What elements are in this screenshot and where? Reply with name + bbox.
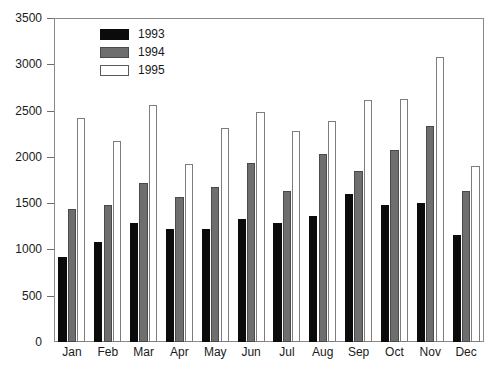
x-tick-label-feb: Feb <box>90 345 126 359</box>
y-tick-label: 3500 <box>15 10 42 26</box>
bar-jul-1994 <box>283 191 291 342</box>
y-tick-mark <box>47 64 54 65</box>
legend-item-1994[interactable]: 1994 <box>100 44 204 60</box>
bar-may-1994 <box>211 187 219 342</box>
legend-swatch-icon <box>100 47 129 58</box>
bar-oct-1993 <box>381 205 389 342</box>
legend-swatch-icon <box>100 29 129 40</box>
x-tick-label-aug: Aug <box>305 345 341 359</box>
legend-label: 1995 <box>138 63 165 77</box>
bar-jul-1993 <box>273 223 281 342</box>
legend-item-1995[interactable]: 1995 <box>100 62 204 78</box>
chart-legend: 199319941995 <box>100 24 204 82</box>
bar-jan-1993 <box>58 257 66 342</box>
legend-swatch-icon <box>100 65 129 76</box>
x-tick-label-jun: Jun <box>233 345 269 359</box>
bar-dec-1993 <box>453 235 461 342</box>
x-tick-label-jul: Jul <box>269 345 305 359</box>
bar-chart: 0500100015002000250030003500 JanFebMarAp… <box>0 0 492 378</box>
bar-feb-1993 <box>94 242 102 342</box>
legend-label: 1994 <box>138 45 165 59</box>
y-tick-label: 1000 <box>15 241 42 257</box>
bar-mar-1995 <box>149 105 157 342</box>
bar-jun-1993 <box>238 219 246 342</box>
bar-sep-1995 <box>364 100 372 342</box>
bar-nov-1995 <box>436 57 444 342</box>
y-tick-mark <box>47 249 54 250</box>
x-tick-label-jan: Jan <box>54 345 90 359</box>
y-tick-mark <box>47 203 54 204</box>
bar-jan-1994 <box>68 209 76 342</box>
bar-nov-1993 <box>417 203 425 342</box>
x-tick-label-mar: Mar <box>126 345 162 359</box>
bar-sep-1994 <box>354 171 362 342</box>
y-tick-label: 2500 <box>15 103 42 119</box>
y-tick-label: 1500 <box>15 195 42 211</box>
x-tick-label-dec: Dec <box>448 345 484 359</box>
bar-jun-1994 <box>247 163 255 342</box>
bar-aug-1993 <box>309 216 317 342</box>
y-tick-mark <box>47 296 54 297</box>
bar-may-1995 <box>221 128 229 342</box>
x-tick-label-oct: Oct <box>377 345 413 359</box>
x-tick-label-sep: Sep <box>341 345 377 359</box>
bar-jun-1995 <box>256 112 264 342</box>
bar-oct-1994 <box>390 150 398 342</box>
legend-label: 1993 <box>138 27 165 41</box>
y-tick-label: 2000 <box>15 149 42 165</box>
bar-apr-1994 <box>175 197 183 342</box>
bar-oct-1995 <box>400 99 408 342</box>
y-tick-label: 3000 <box>15 56 42 72</box>
bar-nov-1994 <box>426 126 434 342</box>
bar-jan-1995 <box>77 118 85 342</box>
bar-jul-1995 <box>292 131 300 342</box>
bar-may-1993 <box>202 229 210 342</box>
x-tick-label-nov: Nov <box>412 345 448 359</box>
bar-apr-1993 <box>166 229 174 342</box>
y-axis: 0500100015002000250030003500 <box>0 0 54 378</box>
y-tick-mark <box>47 157 54 158</box>
bar-aug-1995 <box>328 121 336 342</box>
bar-aug-1994 <box>319 154 327 342</box>
bar-mar-1994 <box>139 183 147 342</box>
y-tick-label: 500 <box>22 288 42 304</box>
bar-feb-1995 <box>113 141 121 342</box>
bar-dec-1995 <box>471 166 479 342</box>
x-tick-label-apr: Apr <box>162 345 198 359</box>
y-tick-label: 0 <box>35 334 42 350</box>
bar-mar-1993 <box>130 223 138 342</box>
x-axis: JanFebMarAprMayJunJulAugSepOctNovDec <box>54 343 484 367</box>
y-tick-mark <box>47 18 54 19</box>
bar-apr-1995 <box>185 164 193 342</box>
bar-feb-1994 <box>104 205 112 342</box>
x-tick-label-may: May <box>197 345 233 359</box>
bar-sep-1993 <box>345 194 353 342</box>
legend-item-1993[interactable]: 1993 <box>100 26 204 42</box>
y-tick-mark <box>47 111 54 112</box>
bar-dec-1994 <box>462 191 470 342</box>
